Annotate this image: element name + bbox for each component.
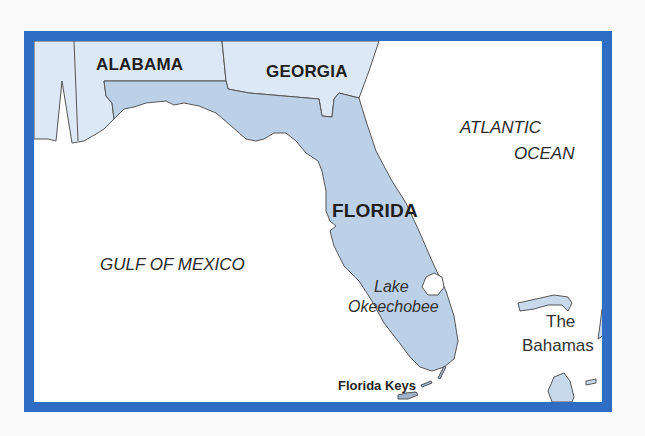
label-bahamas-line2: Bahamas <box>522 337 594 354</box>
label-bahamas-line1: The <box>546 313 575 330</box>
florida-map <box>34 41 602 402</box>
label-lake-line2: Okeechobee <box>348 299 439 315</box>
label-alabama: ALABAMA <box>96 56 183 73</box>
florida-region <box>104 81 458 371</box>
bahamas-island-small <box>586 379 596 385</box>
bahamas-island-north <box>518 295 572 311</box>
label-georgia: GEORGIA <box>266 63 348 80</box>
map-frame: ALABAMA GEORGIA FLORIDA ATLANTIC OCEAN G… <box>24 31 612 412</box>
bahamas-island-east <box>598 305 602 339</box>
label-lake-line1: Lake <box>374 279 409 295</box>
label-florida-keys: Florida Keys <box>338 379 416 392</box>
label-atlantic-line1: ATLANTIC <box>460 119 541 136</box>
bahamas-island-south <box>548 373 574 402</box>
label-gulf-of-mexico: GULF OF MEXICO <box>100 256 245 273</box>
label-florida: FLORIDA <box>332 201 418 220</box>
label-atlantic-line2: OCEAN <box>514 145 574 162</box>
